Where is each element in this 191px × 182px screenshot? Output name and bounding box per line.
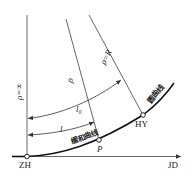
label-HY: HY — [135, 119, 148, 129]
label-l: l — [60, 124, 63, 134]
radius-line-rho-R — [89, 15, 143, 115]
transition-curve-diagram: ρ=∞ ρ ρ=R l₀ l 缓和曲线 圆曲线 P HY ZH JD — [0, 0, 191, 182]
label-transition-curve: 缓和曲线 — [68, 127, 100, 147]
label-l0: l₀ — [76, 104, 82, 114]
label-rho-infinity: ρ=∞ — [14, 83, 24, 101]
label-P: P — [96, 144, 103, 154]
point-HY-marker — [141, 113, 146, 118]
point-ZH-marker — [25, 154, 30, 159]
label-circular-curve: 圆曲线 — [145, 82, 166, 105]
dimension-arc-l0 — [28, 80, 121, 119]
label-JD: JD — [168, 160, 179, 170]
label-ZH: ZH — [19, 160, 31, 170]
point-P-marker — [97, 138, 102, 143]
label-rho: ρ — [64, 76, 75, 84]
